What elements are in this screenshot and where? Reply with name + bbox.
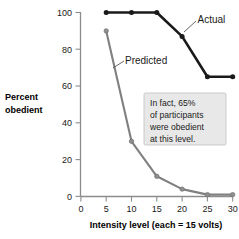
actual-leader-line [184,21,196,32]
x-tick-label-30: 30 [228,204,238,214]
predicted-point-30 [231,192,235,196]
actual-point-5 [104,10,109,15]
callout-annotation: In fact, 65% of participants were obedie… [144,93,226,145]
x-tick-label-20: 20 [177,204,187,214]
x-tick-label-0: 0 [78,204,83,214]
y-axis-title-line1: Percent [5,92,38,102]
y-tick-label-100: 100 [57,8,72,18]
actual-point-15 [154,10,159,15]
callout-line-2: of participants [150,110,204,120]
predicted-series-label: Predicted [125,55,167,66]
y-axis-title-line2: obedient [5,105,43,115]
callout-line-1: In fact, 65% [150,98,196,108]
chart-canvas: 100 80 60 40 20 0 0 5 10 15 20 25 30 Int… [0,0,239,239]
predicted-point-20 [180,187,184,191]
obedience-line-chart-figure: 100 80 60 40 20 0 0 5 10 15 20 25 30 Int… [0,0,239,239]
x-tick-label-5: 5 [104,204,109,214]
x-tick-label-25: 25 [202,204,212,214]
x-tick-label-15: 15 [152,204,162,214]
y-axis: 100 80 60 40 20 0 [57,8,81,202]
predicted-series-annotation: Predicted [113,55,167,69]
y-tick-label-0: 0 [67,192,72,202]
predicted-point-5 [104,29,108,33]
predicted-point-15 [155,174,159,178]
y-tick-label-60: 60 [62,81,72,91]
y-tick-label-40: 40 [62,118,72,128]
x-axis: 0 5 10 15 20 25 30 [78,197,237,215]
predicted-point-25 [205,192,209,196]
predicted-point-10 [129,139,133,143]
y-axis-title: Percent obedient [5,92,43,115]
y-tick-label-20: 20 [62,155,72,165]
actual-series-annotation: Actual [184,14,225,32]
y-tick-label-80: 80 [62,45,72,55]
callout-line-4: at this level. [150,134,195,144]
x-axis-title: Intensity level (each = 15 volts) [90,220,222,230]
x-tick-label-10: 10 [126,204,136,214]
actual-point-10 [129,10,134,15]
actual-point-30 [230,74,235,79]
actual-point-20 [180,34,185,39]
actual-point-25 [205,74,210,79]
actual-series-label: Actual [198,14,226,25]
callout-line-3: were obedient [149,122,205,132]
